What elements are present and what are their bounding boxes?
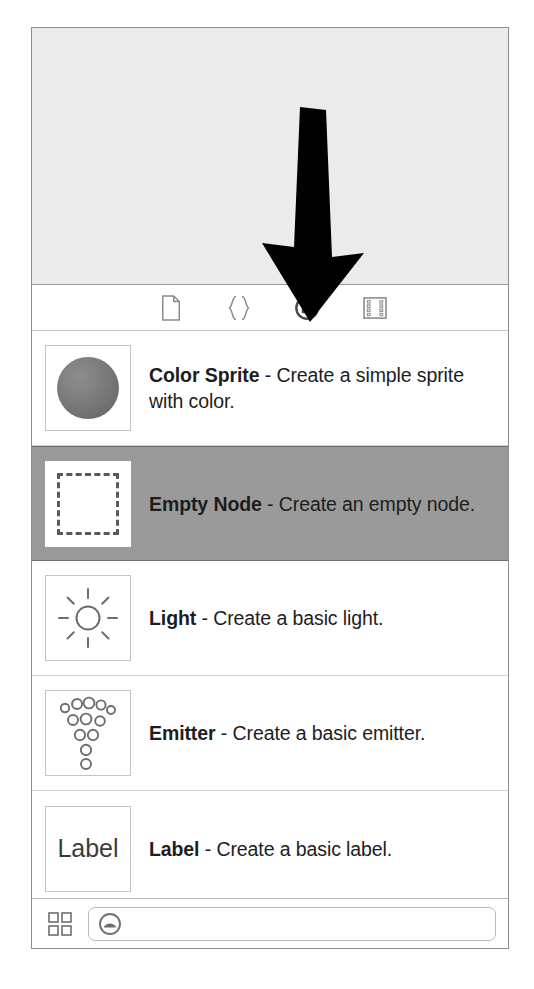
node-description: Create an empty node. xyxy=(279,493,475,515)
list-item[interactable]: Color Sprite - Create a simple sprite wi… xyxy=(32,331,508,446)
node-title: Empty Node xyxy=(149,493,262,515)
node-thumbnail xyxy=(45,345,131,431)
tab-file[interactable] xyxy=(154,292,188,324)
node-text: Color Sprite - Create a simple sprite wi… xyxy=(149,362,498,414)
grid-view-button[interactable] xyxy=(45,909,75,939)
node-text: Empty Node - Create an empty node. xyxy=(149,491,475,517)
node-description: Create a basic emitter. xyxy=(233,722,426,744)
node-separator: - xyxy=(196,607,213,629)
library-bottom-bar xyxy=(32,898,508,948)
node-title: Color Sprite xyxy=(149,364,259,386)
object-token-icon[interactable] xyxy=(97,911,123,937)
node-text: Label - Create a basic label. xyxy=(149,836,392,862)
node-text: Light - Create a basic light. xyxy=(149,605,383,631)
node-separator: - xyxy=(259,364,276,386)
library-filter-input[interactable] xyxy=(129,915,487,932)
node-template-list: Color Sprite - Create a simple sprite wi… xyxy=(32,331,508,898)
node-thumbnail xyxy=(45,690,131,776)
tab-objects[interactable] xyxy=(290,292,324,324)
grid-icon xyxy=(47,911,73,937)
node-thumbnail xyxy=(45,461,131,547)
dashed-square-icon xyxy=(57,473,119,535)
library-panel: Color Sprite - Create a simple sprite wi… xyxy=(31,27,509,949)
label-icon: Label xyxy=(57,834,118,863)
library-filter-field[interactable] xyxy=(88,907,496,941)
node-separator: - xyxy=(215,722,232,744)
library-tab-bar xyxy=(32,285,508,331)
object-library-window: Color Sprite - Create a simple sprite wi… xyxy=(0,0,534,989)
node-text: Emitter - Create a basic emitter. xyxy=(149,720,425,746)
list-item[interactable]: Light - Create a basic light. xyxy=(32,561,508,676)
tab-code[interactable] xyxy=(222,292,256,324)
node-description: Create a basic light. xyxy=(213,607,383,629)
tab-media[interactable] xyxy=(358,292,392,324)
node-title: Emitter xyxy=(149,722,215,744)
list-item[interactable]: Label Label - Create a basic label. xyxy=(32,791,508,898)
node-title: Light xyxy=(149,607,196,629)
empty-preview-canvas[interactable] xyxy=(32,28,508,285)
node-separator: - xyxy=(199,838,216,860)
node-thumbnail: Label xyxy=(45,806,131,892)
sphere-icon xyxy=(57,357,119,419)
node-title: Label xyxy=(149,838,199,860)
list-item-selected[interactable]: Empty Node - Create an empty node. xyxy=(32,446,508,561)
emitter-icon xyxy=(53,696,123,770)
node-description: Create a basic label. xyxy=(216,838,392,860)
node-thumbnail xyxy=(45,575,131,661)
node-separator: - xyxy=(262,493,279,515)
light-icon xyxy=(56,586,120,650)
list-item[interactable]: Emitter - Create a basic emitter. xyxy=(32,676,508,791)
